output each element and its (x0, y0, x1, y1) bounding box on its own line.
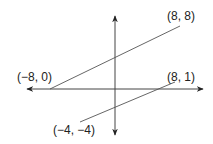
point-label-lower-end: (8, 1) (167, 71, 195, 83)
coordinate-diagram: (8, 8) (−8, 0) (8, 1) (−4, −4) (0, 0, 213, 144)
point-label-lower-start: (−4, −4) (53, 124, 95, 136)
lower-line (80, 82, 175, 122)
point-label-upper-start: (−8, 0) (17, 71, 52, 83)
point-label-upper-end: (8, 8) (167, 10, 195, 22)
